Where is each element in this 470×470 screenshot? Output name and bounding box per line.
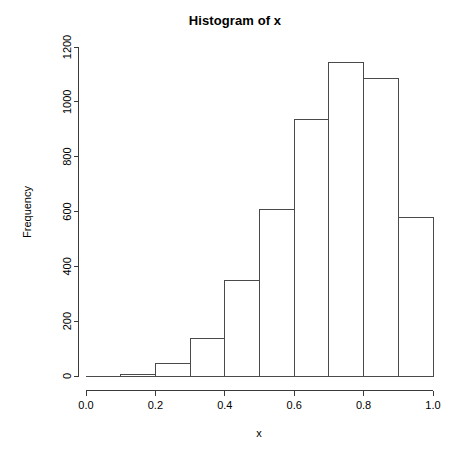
histogram-bar <box>364 79 399 376</box>
bars-group <box>121 62 433 376</box>
y-axis-title: Frequency <box>21 186 33 238</box>
y-tick-labels: 020040060080010001200 <box>61 35 73 379</box>
x-axis <box>86 391 433 396</box>
histogram-bar <box>329 62 364 376</box>
y-axis <box>74 47 79 376</box>
histogram-bar <box>294 120 329 376</box>
chart-canvas: 020040060080010001200 0.00.20.40.60.81.0… <box>0 0 470 470</box>
y-tick-label: 600 <box>61 202 73 220</box>
histogram-bar <box>398 218 433 376</box>
x-tick-label: 0.0 <box>78 399 93 411</box>
x-axis-title: x <box>256 427 262 439</box>
histogram-bar <box>260 209 295 376</box>
x-tick-label: 0.8 <box>356 399 371 411</box>
histogram-bar <box>155 364 190 376</box>
y-tick-label: 800 <box>61 147 73 165</box>
y-tick-label: 200 <box>61 312 73 330</box>
x-tick-label: 0.6 <box>287 399 302 411</box>
y-tick-label: 0 <box>61 373 73 379</box>
histogram-plot-panel: Histogram of x 020040060080010001200 0.0… <box>0 0 470 470</box>
histogram-bar <box>121 374 156 376</box>
y-tick-label: 1000 <box>61 90 73 114</box>
y-tick-label: 400 <box>61 257 73 275</box>
x-tick-label: 0.4 <box>217 399 232 411</box>
histogram-bar <box>225 281 260 376</box>
y-tick-label: 1200 <box>61 35 73 59</box>
x-tick-label: 1.0 <box>425 399 440 411</box>
histogram-bar <box>190 339 225 376</box>
x-tick-label: 0.2 <box>148 399 163 411</box>
x-tick-labels: 0.00.20.40.60.81.0 <box>78 399 440 411</box>
